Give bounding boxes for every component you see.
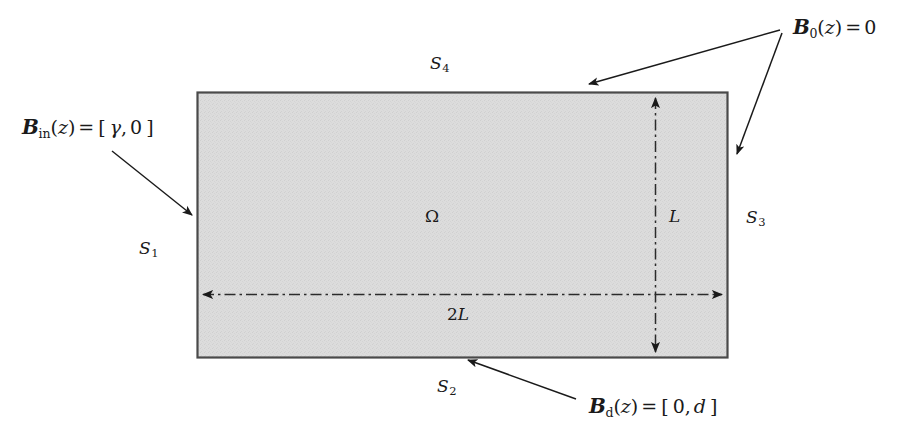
boundary-label-s3-letter: S <box>746 207 758 227</box>
bc-dirichlet-argument: z <box>621 395 631 417</box>
zero-condition-arrow-right <box>737 33 782 154</box>
bc-inflow-comma: , <box>121 116 127 138</box>
dimension-label-horizontal: 2L <box>447 306 469 323</box>
bc-zero-value: 0 <box>864 16 876 38</box>
bc-inflow-subscript: in <box>38 126 50 141</box>
boundary-label-s2: S2 <box>437 378 456 398</box>
domain-symbol-omega: Ω <box>425 208 439 225</box>
boundary-label-s3: S3 <box>746 209 765 229</box>
bc-inflow-function: B <box>22 115 38 139</box>
bc-zero-function: B <box>793 15 809 39</box>
bc-dirichlet-value-2: d <box>694 395 706 417</box>
dirichlet-condition-arrow <box>468 360 576 399</box>
boundary-value-problem-diagram: Ω S1 S2 S3 S4 2L L Bin(z)=[γ,0] B0(z)=0 … <box>0 0 924 438</box>
dimension-label-vertical: L <box>669 208 680 225</box>
boundary-label-s1-letter: S <box>139 238 151 258</box>
inflow-condition-arrow <box>112 151 192 215</box>
bc-dirichlet-comma: , <box>685 395 691 417</box>
zero-condition-arrow-top <box>589 30 780 84</box>
boundary-label-s2-letter: S <box>437 376 449 396</box>
bc-dirichlet-value-1: 0 <box>673 395 685 417</box>
boundary-condition-zero: B0(z)=0 <box>793 17 876 40</box>
dimension-horizontal-value: 2 <box>447 304 458 324</box>
bc-dirichlet-function: B <box>589 394 605 418</box>
bc-inflow-value-2: 0 <box>130 116 142 138</box>
bc-dirichlet-open-bracket: [ <box>661 395 668 417</box>
bc-inflow-value-1: γ <box>110 116 121 138</box>
diagram-vector-layer <box>0 0 924 438</box>
bc-zero-argument: z <box>825 16 835 38</box>
bc-inflow-equals: = <box>78 116 94 138</box>
boundary-label-s1: S1 <box>139 240 158 260</box>
boundary-label-s4-index: 4 <box>442 61 449 75</box>
boundary-label-s4: S4 <box>430 55 449 75</box>
boundary-label-s2-index: 2 <box>449 384 456 398</box>
dimension-horizontal-symbol: L <box>458 304 469 324</box>
bc-inflow-close-bracket: ] <box>146 116 153 138</box>
boundary-label-s4-letter: S <box>430 53 442 73</box>
bc-inflow-argument: z <box>58 116 68 138</box>
boundary-label-s1-index: 1 <box>151 246 158 260</box>
bc-zero-equals: = <box>845 16 861 38</box>
bc-inflow-open-bracket: [ <box>98 116 105 138</box>
boundary-label-s3-index: 3 <box>758 215 765 229</box>
bc-dirichlet-close-bracket: ] <box>710 395 717 417</box>
boundary-condition-dirichlet: Bd(z)=[0,d] <box>589 396 718 419</box>
boundary-condition-inflow: Bin(z)=[γ,0] <box>22 117 155 140</box>
bc-dirichlet-equals: = <box>641 395 657 417</box>
